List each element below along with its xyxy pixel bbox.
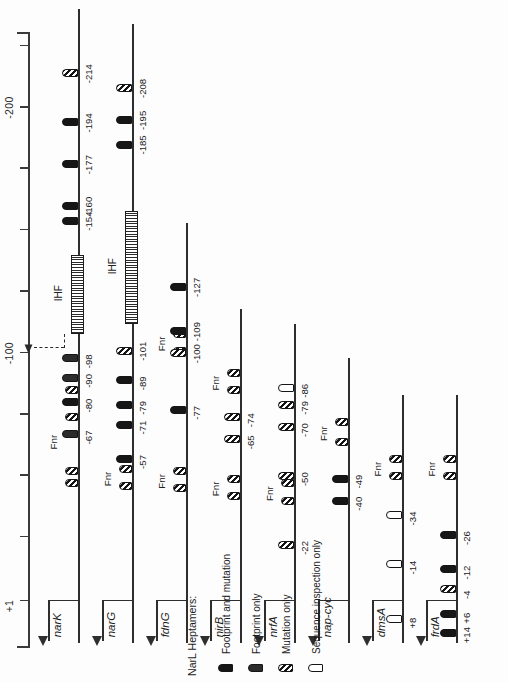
fnr-label: Fnr xyxy=(156,474,167,489)
narl-heptamer-box xyxy=(170,349,186,357)
promoter-stub xyxy=(48,600,78,602)
narl-heptamer-box xyxy=(440,629,456,637)
dna-line xyxy=(132,24,134,643)
fnr-site-box xyxy=(65,413,78,421)
axis-label-minus100: -100 xyxy=(3,342,15,364)
fnr-label-2: Fnr xyxy=(210,376,221,391)
axis-end-cap xyxy=(17,646,30,648)
fnr-site-box xyxy=(227,386,240,394)
legend: NarL Heptamers:Footprint and mutationFoo… xyxy=(180,432,430,680)
bend-arrow-head-icon xyxy=(25,344,33,353)
fnr-label: Fnr xyxy=(102,472,113,487)
axis-tick xyxy=(20,475,29,477)
position-label: -194 xyxy=(83,113,94,132)
narl-heptamer-box xyxy=(116,347,132,355)
narl-heptamer-box xyxy=(62,374,78,382)
fnr-site-box xyxy=(65,386,78,394)
narl-heptamer-box xyxy=(440,565,456,573)
position-label: -67 xyxy=(83,430,94,444)
fnr-site-box xyxy=(119,482,132,490)
narl-heptamer-box xyxy=(116,116,132,124)
position-label: -185 xyxy=(137,135,148,154)
axis-tick xyxy=(20,600,29,602)
fnr-site-box xyxy=(443,455,456,463)
narl-heptamer-box xyxy=(440,610,456,618)
position-label: -195 xyxy=(137,111,148,130)
promoter-map-figure: +1-100-200narKFnrIHF-67-80-90-98-154-160… xyxy=(0,0,508,682)
axis-label-plus1: +1 xyxy=(3,600,15,613)
legend-label: Footprint and mutation xyxy=(221,554,232,654)
position-label: -109 xyxy=(191,322,202,341)
ihf-label: IHF xyxy=(53,285,64,301)
position-label: -160 xyxy=(83,197,94,216)
narl-heptamer-box xyxy=(278,423,294,431)
dna-line xyxy=(456,395,458,643)
narl-heptamer-box xyxy=(62,354,78,362)
gene-name-narG: narG xyxy=(105,612,117,638)
promoter-bar xyxy=(156,601,158,641)
fnr-site-box xyxy=(443,472,456,480)
fnr-site-box xyxy=(65,479,78,487)
promoter-bar xyxy=(48,601,50,641)
legend-swatch-mut xyxy=(278,664,293,672)
axis-end-cap xyxy=(17,32,30,34)
position-label: +6 xyxy=(461,613,472,624)
position-label: -98 xyxy=(83,354,94,368)
ihf-block xyxy=(71,255,84,334)
narl-heptamer-box xyxy=(116,84,132,92)
transcription-start-arrowhead xyxy=(146,636,156,646)
legend-swatch-foot xyxy=(248,664,263,672)
fnr-site-box xyxy=(227,369,240,377)
position-label: -80 xyxy=(83,399,94,413)
axis-tick xyxy=(20,413,29,415)
gene-name-fdnG: fdnG xyxy=(159,612,171,637)
axis-tick xyxy=(20,229,29,231)
narl-heptamer-box xyxy=(62,118,78,126)
legend-swatch-filled xyxy=(218,664,233,672)
narl-heptamer-box xyxy=(62,202,78,210)
narl-heptamer-box xyxy=(62,398,78,406)
legend-rotated-container: NarL Heptamers:Footprint and mutationFoo… xyxy=(178,434,428,682)
position-label: -12 xyxy=(461,566,472,580)
position-label: -77 xyxy=(191,406,202,420)
ihf-label: IHF xyxy=(107,258,118,274)
position-label: +14 xyxy=(461,627,472,643)
narl-heptamer-box xyxy=(116,376,132,384)
narl-heptamer-box xyxy=(62,160,78,168)
narl-heptamer-box xyxy=(170,283,186,291)
position-label: -26 xyxy=(461,531,472,545)
narl-heptamer-box xyxy=(116,455,132,463)
position-label: -177 xyxy=(83,155,94,174)
narl-heptamer-box xyxy=(278,401,294,409)
position-label: -57 xyxy=(137,455,148,469)
narl-heptamer-box xyxy=(170,406,186,414)
axis-tick xyxy=(20,168,29,170)
position-label: -86 xyxy=(299,384,310,398)
fnr-site-box xyxy=(119,465,132,473)
position-label: -79 xyxy=(137,401,148,415)
narl-heptamer-box xyxy=(278,384,294,392)
transcription-start-arrowhead xyxy=(38,636,48,646)
narl-heptamer-box xyxy=(116,141,132,149)
position-label: -4 xyxy=(461,591,472,600)
promoter-stub xyxy=(102,600,132,602)
fnr-label-2: Fnr xyxy=(156,337,167,352)
narl-heptamer-box xyxy=(116,401,132,409)
transcription-start-arrowhead xyxy=(92,636,102,646)
position-label: -71 xyxy=(137,421,148,435)
legend-swatch-seq xyxy=(308,664,323,672)
axis-tick xyxy=(20,290,29,292)
narl-heptamer-box xyxy=(440,585,456,593)
axis-tick xyxy=(20,45,29,47)
position-label: -127 xyxy=(191,278,202,297)
fnr-label: Fnr xyxy=(48,435,59,450)
narl-heptamer-box xyxy=(440,531,456,539)
narl-heptamer-box xyxy=(62,217,78,225)
narl-heptamer-box xyxy=(62,69,78,77)
bend-arrow-dashed-vertical xyxy=(34,347,64,348)
legend-label: Mutation only xyxy=(281,595,292,654)
axis-tick xyxy=(20,536,29,538)
ihf-block xyxy=(125,211,138,324)
position-label: -208 xyxy=(137,79,148,98)
position-label: -214 xyxy=(83,64,94,83)
